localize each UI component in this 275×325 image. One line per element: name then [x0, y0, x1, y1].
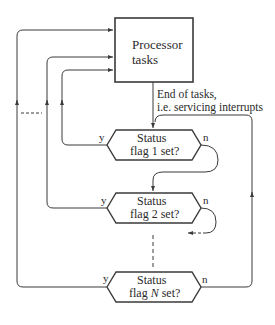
processor-label-line1: Processor: [132, 38, 183, 52]
annotation-line2: i.e. servicing interrupts: [157, 101, 263, 114]
flagN-yes-label: y: [103, 272, 109, 284]
flag1-yes-path: [62, 70, 113, 145]
annotation-line1: End of tasks,: [157, 88, 217, 101]
flagN-var: N: [151, 286, 159, 300]
flagN-pre: flag: [129, 286, 151, 300]
flag2-label-line2: flag 2 set?: [130, 208, 179, 221]
flag1-no-label: n: [203, 131, 209, 143]
flagN-yes-path: [17, 30, 113, 287]
flag2-yes-label: y: [101, 194, 107, 206]
flag1-label-line2: flag 1 set?: [130, 145, 179, 158]
flag2-no-label: n: [203, 194, 209, 206]
flag2-no-path: [201, 208, 216, 233]
flagN-label-line2: flag N set?: [129, 287, 180, 300]
flowchart: Processor tasks End of tasks, i.e. servi…: [0, 0, 275, 325]
processor-label-line2: tasks: [132, 53, 158, 67]
flagN-no-label: n: [202, 273, 208, 285]
flagN-post: set?: [159, 286, 181, 300]
flag1-yes-label: y: [99, 131, 105, 143]
